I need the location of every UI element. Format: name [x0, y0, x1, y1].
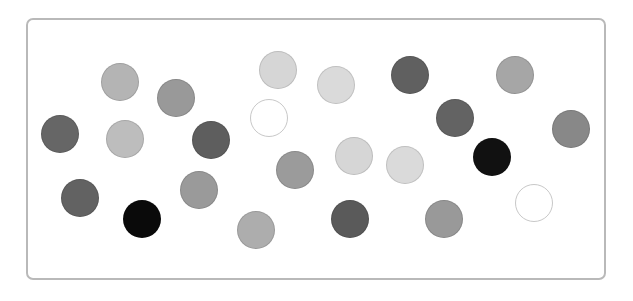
- circle-dot: [386, 146, 424, 184]
- circle-dot: [250, 99, 288, 137]
- circle-dot: [101, 63, 139, 101]
- circle-dot: [425, 200, 463, 238]
- circle-dot: [391, 56, 429, 94]
- circle-dot: [515, 184, 553, 222]
- circle-dot: [552, 110, 590, 148]
- circle-dot: [331, 200, 369, 238]
- circle-dot: [335, 137, 373, 175]
- circle-dot: [259, 51, 297, 89]
- circle-dot: [41, 115, 79, 153]
- stage: [0, 0, 633, 301]
- circle-dot: [317, 66, 355, 104]
- circle-dot: [180, 171, 218, 209]
- circle-dot: [192, 121, 230, 159]
- circle-dot: [61, 179, 99, 217]
- circle-dot: [436, 99, 474, 137]
- circle-dot: [473, 138, 511, 176]
- circle-dot: [276, 151, 314, 189]
- circle-dot: [106, 120, 144, 158]
- circle-dot: [123, 200, 161, 238]
- circle-dot: [157, 79, 195, 117]
- circle-dot: [496, 56, 534, 94]
- circle-dot: [237, 211, 275, 249]
